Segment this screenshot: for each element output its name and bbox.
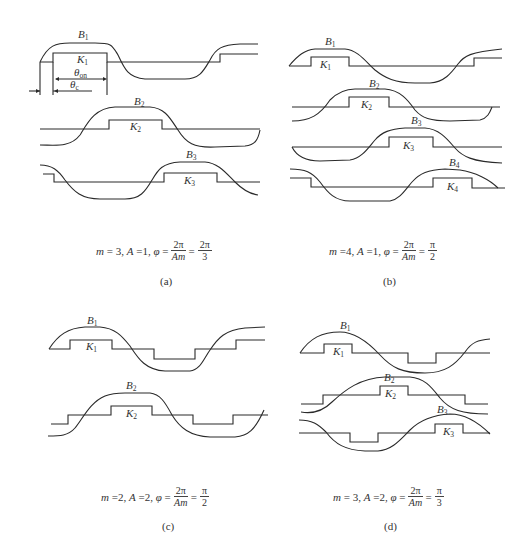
label-k1: K1 <box>85 340 97 354</box>
panel-d-caption: (d) <box>384 520 397 532</box>
label-b3: B3 <box>411 114 422 128</box>
panel-d-k1-pulse <box>300 344 490 363</box>
label-k3: K3 <box>442 425 454 439</box>
panel-b-b4-curve <box>290 169 498 201</box>
label-b1: B1 <box>87 314 98 328</box>
panel-b-b2-curve <box>292 89 492 121</box>
panel-b-k3-pulse <box>292 137 502 147</box>
label-k2: K2 <box>384 387 396 401</box>
label-k2: K2 <box>125 407 137 421</box>
waveform-diagram: B1 K1 θon θc B2 K2 B3 K3 B1 K1 B2 K2 B3 … <box>0 0 524 545</box>
label-k1: K1 <box>76 53 88 67</box>
panel-b-waveforms: B1 K1 B2 K2 B3 K3 B4 K4 <box>289 35 505 201</box>
panel-c-k2-pulse <box>51 406 268 424</box>
label-b2: B2 <box>369 77 380 91</box>
label-b2: B2 <box>384 371 395 385</box>
label-b3: B3 <box>186 148 197 162</box>
label-b1: B1 <box>325 35 336 49</box>
label-k3: K3 <box>402 139 414 153</box>
panel-d-equation: m = 3, A =2, φ = 2πAm = π3 <box>333 485 447 508</box>
label-b2: B2 <box>134 95 145 109</box>
panel-b-k2-pulse <box>292 97 500 107</box>
label-b4: B4 <box>449 156 460 170</box>
panel-c-k1-pulse <box>49 340 265 359</box>
panel-a-b2-curve <box>40 107 260 147</box>
panel-b-caption: (b) <box>383 275 396 287</box>
label-k2: K2 <box>129 120 141 134</box>
label-b1: B1 <box>340 319 351 333</box>
label-b2: B2 <box>126 379 137 393</box>
panel-c-caption: (c) <box>162 520 174 532</box>
label-b3: B3 <box>437 403 448 417</box>
panel-b-equation: m =4, A =1, φ = 2πAm = π2 <box>329 239 440 262</box>
panel-d-k3-pulse <box>299 424 490 442</box>
label-k4: K4 <box>446 180 458 194</box>
panel-a-b3-curve <box>40 162 258 199</box>
panel-a-k2-pulse <box>40 120 260 129</box>
panel-b-k4-pulse <box>290 178 505 188</box>
label-k2: K2 <box>360 98 372 112</box>
panel-a-b1-curve <box>40 43 258 79</box>
panel-a-k1-pulse <box>40 53 258 62</box>
panel-a-caption: (a) <box>160 275 172 287</box>
panel-b-b3-curve <box>292 128 502 163</box>
panel-a-waveforms: B1 K1 θon θc B2 K2 B3 K3 <box>29 28 260 199</box>
arrowhead-icon <box>54 89 58 93</box>
arrowhead-icon <box>36 89 40 93</box>
label-b1: B1 <box>78 28 89 42</box>
panel-a-equation: m = 3, A =1, φ = 2πAm = 2π3 <box>96 239 215 262</box>
label-theta-c: θc <box>70 78 79 92</box>
label-k1: K1 <box>319 58 331 72</box>
label-theta-on: θon <box>74 66 87 80</box>
panel-c-waveforms: B1 K1 B2 K2 <box>48 314 268 437</box>
panel-c-equation: m =2, A =2, φ = 2πAm = π2 <box>101 485 212 508</box>
label-k3: K3 <box>183 174 195 188</box>
panel-d-waveforms: B1 K1 B2 K2 B3 K3 <box>299 319 490 451</box>
label-k1: K1 <box>332 345 344 359</box>
